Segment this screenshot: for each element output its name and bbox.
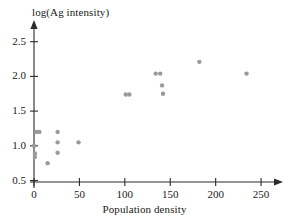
x-tick-label: 50	[64, 188, 94, 200]
x-tick-label: 150	[155, 188, 185, 200]
x-tick-label: 200	[201, 188, 231, 200]
data-points-group	[32, 60, 249, 166]
axes-group	[30, 20, 283, 188]
y-tick-label: 0.5	[0, 174, 26, 186]
x-tick-label: 100	[110, 188, 140, 200]
x-tick-label: 250	[246, 188, 276, 200]
data-point	[244, 71, 248, 75]
data-point	[127, 92, 131, 96]
data-point	[55, 130, 59, 134]
x-axis-arrowhead	[274, 178, 283, 185]
data-point	[55, 151, 59, 155]
data-point	[154, 71, 158, 75]
y-tick-label: 2.5	[0, 35, 26, 47]
scatter-plot-figure: log(Ag intensity) Population density 0.5…	[0, 0, 289, 222]
data-point	[37, 130, 41, 134]
tick-marks-group	[30, 42, 261, 186]
y-tick-label: 1.5	[0, 104, 26, 116]
data-point	[197, 60, 201, 64]
y-tick-label: 2.0	[0, 69, 26, 81]
x-tick-label: 0	[19, 188, 49, 200]
y-axis-arrowhead	[30, 20, 37, 29]
data-point	[55, 140, 59, 144]
data-point	[161, 92, 165, 96]
data-point	[158, 71, 162, 75]
data-point	[45, 161, 49, 165]
y-tick-label: 1.0	[0, 139, 26, 151]
data-point	[33, 155, 37, 159]
data-point	[160, 83, 164, 87]
data-point	[32, 144, 36, 148]
data-point	[76, 140, 80, 144]
